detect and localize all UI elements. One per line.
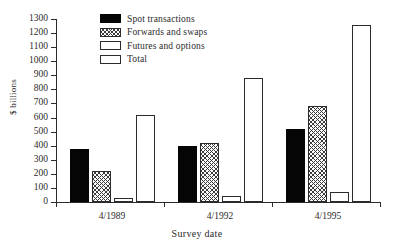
y-tick (51, 118, 56, 119)
bar (70, 149, 89, 202)
y-tick-label: 900 (8, 69, 48, 79)
legend-item-spot-transactions: Spot transactions (100, 12, 207, 26)
y-tick (51, 61, 56, 62)
bar (352, 25, 371, 202)
legend-label-futures: Futures and options (127, 41, 205, 51)
y-tick-label: 600 (8, 112, 48, 122)
legend-label-forwards: Forwards and swaps (127, 27, 207, 37)
bar (330, 192, 349, 202)
x-axis-line (56, 202, 380, 203)
y-tick-label: 1200 (8, 27, 48, 37)
bar (222, 196, 241, 202)
bar (136, 115, 155, 202)
bar (308, 106, 327, 202)
legend-item-total: Total (100, 53, 207, 67)
legend-swatch-spot-icon (100, 14, 121, 23)
y-tick (51, 132, 56, 133)
legend-swatch-total-icon (100, 55, 121, 64)
y-tick-label: 0 (8, 196, 48, 206)
bar (114, 198, 133, 202)
y-tick (51, 188, 56, 189)
y-tick-label: 300 (8, 154, 48, 164)
y-tick-label: 1000 (8, 55, 48, 65)
y-tick (51, 75, 56, 76)
y-tick (51, 47, 56, 48)
y-tick-label: 1100 (8, 41, 48, 51)
y-tick-label: 700 (8, 97, 48, 107)
y-tick (51, 174, 56, 175)
y-axis-line (56, 19, 57, 202)
x-tick (56, 202, 57, 207)
y-tick (51, 89, 56, 90)
x-tick (164, 202, 165, 207)
bar (200, 143, 219, 202)
y-tick (51, 146, 56, 147)
y-tick-label: 1300 (8, 13, 48, 23)
y-tick (51, 33, 56, 34)
legend-item-forwards-and-swaps: Forwards and swaps (100, 26, 207, 40)
bar (244, 78, 263, 202)
y-tick (51, 160, 56, 161)
legend-item-futures-and-options: Futures and options (100, 39, 207, 53)
x-tick (380, 202, 381, 207)
y-tick-label: 200 (8, 168, 48, 178)
legend: Spot transactions Forwards and swaps Fut… (100, 12, 207, 66)
legend-swatch-futures-icon (100, 41, 121, 50)
bar-chart: $ billions Survey date 01002003004005006… (0, 0, 394, 249)
x-tick-label: 4/1992 (180, 211, 260, 221)
x-tick-label: 4/1995 (288, 211, 368, 221)
legend-label-total: Total (127, 54, 147, 64)
x-tick-label: 4/1989 (72, 211, 152, 221)
bar (286, 129, 305, 202)
y-tick (51, 19, 56, 20)
x-axis-label: Survey date (0, 228, 394, 239)
bar (178, 146, 197, 202)
y-tick-label: 500 (8, 126, 48, 136)
legend-swatch-forwards-icon (100, 28, 121, 37)
y-tick (51, 103, 56, 104)
legend-label-spot: Spot transactions (127, 14, 195, 24)
x-tick (272, 202, 273, 207)
y-tick-label: 400 (8, 140, 48, 150)
y-tick-label: 100 (8, 182, 48, 192)
bar (92, 171, 111, 202)
y-tick-label: 800 (8, 83, 48, 93)
